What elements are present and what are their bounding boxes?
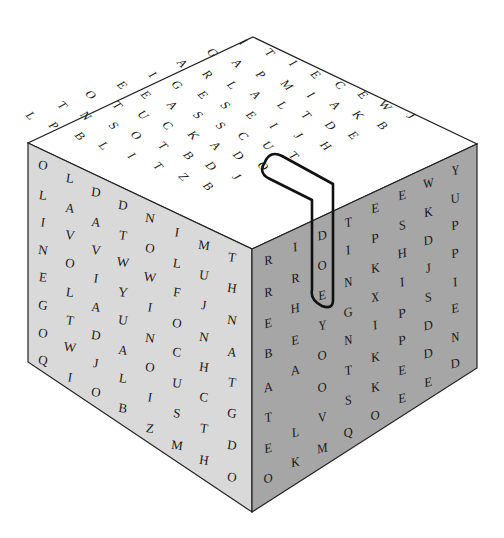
word-search-cube: IGAIEOTLTARGETNPIPLEAUSBEMASSCOLCILESKTI… (0, 0, 504, 538)
grid-letter[interactable]: O (82, 88, 101, 101)
grid-letter[interactable]: T (54, 99, 72, 112)
grid-letter[interactable]: L (22, 110, 40, 122)
grid-letter[interactable]: I (145, 70, 160, 80)
grid-letter[interactable]: E (113, 79, 131, 91)
